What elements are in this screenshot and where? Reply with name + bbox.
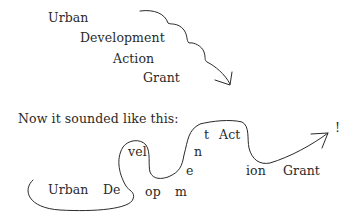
illustration: Urban Development Action Grant Now it so… (0, 0, 353, 220)
fragment-grant: Grant (283, 165, 320, 178)
fragment-t: t (204, 129, 209, 142)
fragment-vel: vel (128, 146, 147, 159)
top-word-urban: Urban (48, 12, 89, 25)
top-word-development: Development (80, 32, 165, 45)
fragment-ion: ion (246, 165, 266, 178)
fragment-act: Act (219, 129, 240, 142)
fragment-exclamation: ! (335, 122, 340, 135)
fragment-de: De (103, 184, 121, 197)
top-word-grant: Grant (143, 72, 180, 85)
fragment-op: op (145, 186, 161, 199)
fragment-urban: Urban (48, 184, 89, 197)
caption: Now it sounded like this: (18, 113, 179, 126)
top-word-action: Action (113, 53, 154, 66)
fragment-n: n (194, 146, 202, 159)
fragment-m: m (175, 186, 187, 199)
fragment-e: e (186, 165, 194, 178)
